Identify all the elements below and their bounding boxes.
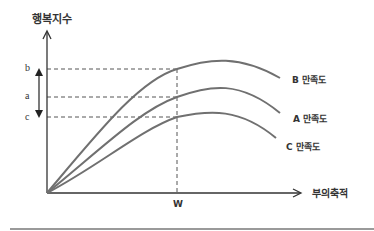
bottom-divider (10, 228, 374, 230)
y-tick-c: c (25, 111, 29, 122)
curve-a (47, 88, 280, 193)
x-axis-title: 부의축적 (312, 185, 348, 200)
happiness-wealth-diagram: 행복지수 부의축적 b a c W B 만족도 A 만족도 C 만족도 (0, 0, 374, 231)
curve-label-c: C 만족도 (286, 140, 320, 153)
dashed-guides (47, 69, 177, 194)
y-tick-b: b (25, 62, 30, 73)
curve-label-a: A 만족도 (293, 112, 327, 125)
x-tick-w: W (173, 199, 183, 209)
y-axis-title: 행복지수 (32, 10, 72, 26)
y-tick-a: a (25, 90, 29, 101)
range-arrow-icon (35, 68, 43, 118)
curves (47, 61, 280, 193)
curve-label-b: B 만족도 (292, 73, 326, 86)
